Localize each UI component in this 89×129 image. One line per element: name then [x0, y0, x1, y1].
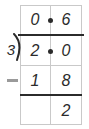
- subtrahend-ones-digit: 1: [20, 66, 50, 96]
- dividend-ones-digit: 2: [20, 36, 50, 66]
- dividend-tenths-digit: 0: [51, 36, 81, 66]
- subtrahend-tenths-digit: 8: [51, 66, 81, 96]
- long-division-figure: 3 0 6 2 0 1 8 2: [0, 0, 89, 129]
- remainder-tenths-digit: 2: [51, 96, 81, 126]
- quotient-tenths-digit: 6: [51, 5, 81, 35]
- quotient-decimal-point-icon: [48, 18, 53, 23]
- quotient-ones-digit: 0: [20, 5, 50, 35]
- dividend-decimal-point-icon: [48, 49, 53, 54]
- divisor: 3: [2, 36, 15, 64]
- minus-operator-icon: [7, 79, 18, 82]
- remainder-ones-digit: [20, 96, 50, 126]
